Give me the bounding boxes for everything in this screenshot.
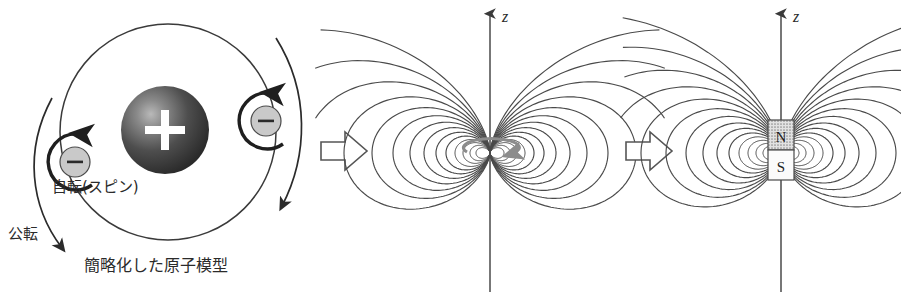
electron-right-group: [239, 93, 283, 149]
panel-simplified-atomic-model: 自転(スピン) 公転 簡略化した原子模型: [0, 0, 320, 300]
z-axis-label-loop: z: [501, 8, 509, 25]
bar-magnet: N S: [768, 120, 794, 180]
revolution-arc-left: [34, 98, 62, 248]
field-line-group: [621, 18, 901, 207]
field-line: [686, 116, 781, 189]
field-line: [781, 87, 901, 153]
dipole-field-loop: z: [355, 0, 625, 300]
panel-current-loop-field: z: [355, 0, 625, 300]
label-orbit: 公転: [8, 222, 38, 243]
field-line: [393, 116, 490, 191]
dipole-field-magnet: z N S: [660, 0, 901, 300]
caption-simplified-atomic-model: 簡略化した原子模型: [84, 252, 228, 276]
magnet-north-label: N: [776, 129, 787, 145]
figure-root: 自転(スピン) 公転 簡略化した原子模型 z: [0, 0, 901, 300]
z-axis-label-magnet: z: [792, 8, 800, 25]
field-line: [781, 116, 876, 189]
panel-bar-magnet-field: z N S: [660, 0, 901, 300]
label-spin: 自転(スピン): [52, 175, 139, 196]
field-line: [666, 109, 781, 198]
field-line: [781, 109, 896, 198]
field-line: [490, 116, 587, 191]
field-line: [641, 99, 781, 207]
magnet-south-label: S: [777, 159, 785, 175]
